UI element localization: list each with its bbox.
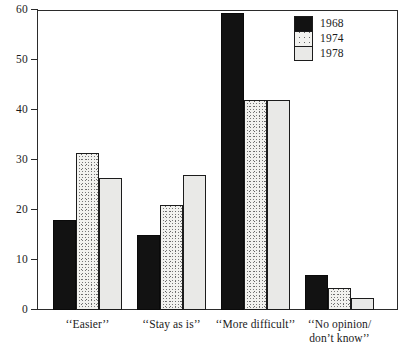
y-axis-tick-label: 30 — [2, 154, 28, 166]
bar-1968-0 — [53, 220, 76, 310]
legend-label: 1978 — [320, 48, 344, 60]
y-axis-tick-label: 20 — [2, 204, 28, 216]
bar-1968-2 — [221, 13, 244, 311]
y-axis-tick-label: 50 — [2, 54, 28, 66]
y-axis-tick-label: 10 — [2, 254, 28, 266]
x-axis-category-label: ‘‘No opinion/ don’t know’’ — [280, 318, 400, 345]
legend-item: 1978 — [294, 46, 392, 61]
bar-1974-0 — [76, 153, 99, 311]
legend-label: 1968 — [320, 18, 344, 30]
y-axis-tick-label: 60 — [2, 4, 28, 16]
y-axis-tick-label: 0 — [2, 304, 28, 316]
legend-item: 1974 — [294, 31, 392, 46]
legend-swatch-icon — [294, 31, 313, 46]
chart-legend: 1968 1974 1978 — [294, 16, 392, 61]
bar-1974-1 — [160, 205, 183, 310]
bar-1968-1 — [137, 235, 160, 310]
legend-item: 1968 — [294, 16, 392, 31]
bar-1968-3 — [305, 275, 328, 310]
bar-1974-3 — [328, 288, 351, 311]
bar-1978-2 — [267, 100, 290, 310]
y-axis-tick-label: 40 — [2, 104, 28, 116]
legend-swatch-icon — [294, 16, 313, 31]
bar-1978-1 — [183, 175, 206, 310]
bar-1978-0 — [99, 178, 122, 311]
legend-swatch-icon — [294, 46, 313, 61]
legend-label: 1974 — [320, 33, 344, 45]
bar-1974-2 — [244, 100, 267, 310]
bar-chart: 0102030405060 ‘‘Easier’’‘‘Stay as is’’‘‘… — [0, 0, 402, 349]
bar-1978-3 — [351, 298, 374, 311]
